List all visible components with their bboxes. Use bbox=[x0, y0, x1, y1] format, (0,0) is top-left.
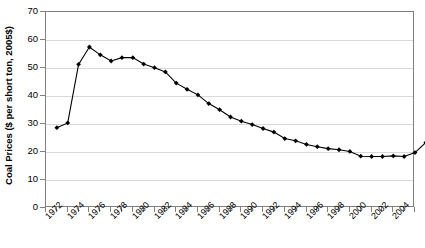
data-point-marker bbox=[120, 55, 125, 60]
data-point-marker bbox=[185, 87, 190, 92]
coal-prices-chart: Coal Prices ($ per short ton, 2005$) 010… bbox=[0, 0, 425, 248]
data-point-marker bbox=[272, 130, 277, 135]
data-point-marker bbox=[380, 154, 385, 159]
data-point-marker bbox=[261, 126, 266, 131]
y-axis-tick-label: 40 bbox=[12, 90, 38, 99]
plot-area bbox=[45, 11, 414, 207]
data-point-marker bbox=[347, 149, 352, 154]
y-axis-tick-label: 0 bbox=[12, 202, 38, 211]
y-axis-tick-label: 70 bbox=[12, 6, 38, 15]
data-point-marker bbox=[315, 144, 320, 149]
data-point-marker bbox=[152, 65, 157, 70]
data-point-marker bbox=[358, 154, 363, 159]
y-axis-tick-label: 10 bbox=[12, 174, 38, 183]
data-point-marker bbox=[239, 119, 244, 124]
data-point-marker bbox=[141, 62, 146, 67]
data-point-marker bbox=[282, 136, 287, 141]
x-axis-tick bbox=[414, 207, 415, 212]
y-axis-tick-label: 50 bbox=[12, 62, 38, 71]
data-point-marker bbox=[130, 55, 135, 60]
data-point-marker bbox=[369, 154, 374, 159]
data-point-marker bbox=[109, 59, 114, 64]
data-point-marker bbox=[402, 154, 407, 159]
data-point-marker bbox=[250, 122, 255, 127]
y-axis-tick-label: 20 bbox=[12, 146, 38, 155]
data-point-marker bbox=[54, 125, 59, 130]
data-point-marker bbox=[326, 146, 331, 151]
data-point-marker bbox=[65, 120, 70, 125]
data-point-marker bbox=[304, 142, 309, 147]
data-markers bbox=[54, 45, 425, 159]
data-point-marker bbox=[391, 154, 396, 159]
data-series-coal-prices bbox=[46, 12, 415, 208]
data-line bbox=[57, 47, 425, 156]
data-point-marker bbox=[293, 138, 298, 143]
y-axis-tick-label: 30 bbox=[12, 118, 38, 127]
y-axis-title-text: Coal Prices ($ per short ton, 2005$) bbox=[3, 26, 14, 185]
y-axis-tick-label: 60 bbox=[12, 34, 38, 43]
data-point-marker bbox=[337, 147, 342, 152]
